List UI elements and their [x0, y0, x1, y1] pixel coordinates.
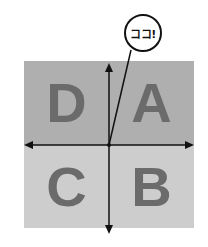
origin-dot	[107, 143, 111, 147]
arrow-right-icon	[185, 141, 194, 149]
callout-text: ココ!	[130, 25, 156, 41]
callout-bubble: ココ!	[124, 14, 162, 52]
axes-overlay	[0, 0, 208, 247]
arrow-left-icon	[24, 141, 33, 149]
arrow-up-icon	[105, 63, 113, 72]
callout-pointer	[109, 50, 131, 145]
vertical-axis	[105, 63, 113, 234]
arrow-down-icon	[105, 225, 113, 234]
